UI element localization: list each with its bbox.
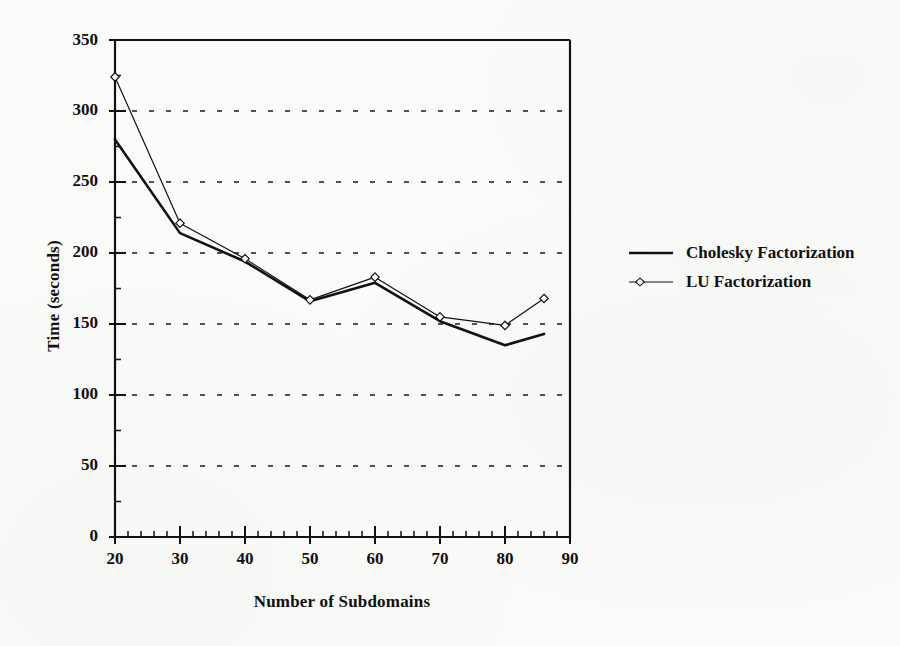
x-tick-label-50: 50 [288, 549, 332, 569]
x-axis-title: Number of Subdomains [0, 592, 684, 612]
legend-item-cholesky: Cholesky Factorization [628, 238, 855, 267]
y-tick-label-300: 300 [44, 100, 98, 120]
solid-line-swatch-icon [628, 246, 674, 260]
figure-line-chart: 350 300 250 200 150 100 50 0 20 30 40 50… [0, 0, 900, 646]
x-tick-label-80: 80 [483, 549, 527, 569]
y-axis-title: Time (seconds) [44, 176, 64, 416]
diamond-line-swatch-icon [628, 275, 674, 289]
y-tick-label-0: 0 [44, 526, 98, 546]
legend: Cholesky Factorization LU Factorization [628, 238, 855, 296]
x-tick-label-90: 90 [548, 549, 592, 569]
x-tick-label-70: 70 [418, 549, 462, 569]
page-background: 350 300 250 200 150 100 50 0 20 30 40 50… [0, 0, 900, 646]
y-tick-label-50: 50 [44, 455, 98, 475]
x-tick-label-40: 40 [223, 549, 267, 569]
y-tick-label-350: 350 [44, 30, 98, 50]
data-series-group [111, 73, 548, 346]
legend-item-lu: LU Factorization [628, 267, 855, 296]
x-tick-label-60: 60 [353, 549, 397, 569]
x-tick-label-20: 20 [93, 549, 137, 569]
legend-label-lu: LU Factorization [686, 273, 811, 290]
x-tick-label-30: 30 [158, 549, 202, 569]
legend-label-cholesky: Cholesky Factorization [686, 244, 855, 261]
